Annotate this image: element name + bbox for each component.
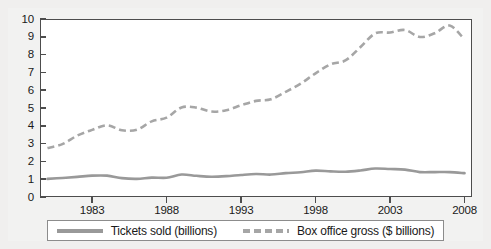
x-tick-label: 1998 bbox=[293, 204, 339, 216]
x-tick-mark bbox=[240, 197, 242, 203]
y-tick-label: 4 bbox=[0, 120, 34, 130]
y-tick-label: 8 bbox=[0, 49, 34, 59]
line-chart: 109876543210 198319881993199820032008 bbox=[0, 0, 491, 249]
series-tickets-sold bbox=[47, 168, 464, 178]
legend-label-box-office-gross: Box office gross ($ billions) bbox=[297, 224, 434, 238]
chart-screenshot: 109876543210 198319881993199820032008 Ti… bbox=[0, 0, 491, 249]
y-tick-label: 2 bbox=[0, 156, 34, 166]
x-tick-mark bbox=[315, 197, 317, 203]
x-tick-mark bbox=[91, 197, 93, 203]
x-tick-label: 2008 bbox=[442, 204, 488, 216]
legend-item-tickets-sold: Tickets sold (billions) bbox=[57, 224, 217, 238]
y-tick-label: 10 bbox=[0, 14, 34, 24]
x-tick-mark bbox=[389, 197, 391, 203]
y-tick-label: 1 bbox=[0, 174, 34, 184]
y-tick-label: 5 bbox=[0, 103, 34, 113]
x-tick-mark bbox=[464, 197, 466, 203]
x-tick-label: 1988 bbox=[144, 204, 190, 216]
series-canvas bbox=[40, 19, 472, 197]
series-box-office-gross bbox=[47, 25, 464, 148]
y-tick-label: 0 bbox=[0, 192, 34, 202]
x-tick-label: 1983 bbox=[69, 204, 115, 216]
y-tick-label: 7 bbox=[0, 67, 34, 77]
x-tick-mark bbox=[166, 197, 168, 203]
legend-swatch-dashed-icon bbox=[243, 225, 289, 237]
x-tick-label: 1993 bbox=[218, 204, 264, 216]
y-tick-label: 3 bbox=[0, 138, 34, 148]
y-tick-label: 6 bbox=[0, 85, 34, 95]
legend-swatch-solid-icon bbox=[57, 225, 103, 237]
chart-legend: Tickets sold (billions) Box office gross… bbox=[47, 220, 444, 241]
x-tick-label: 2003 bbox=[367, 204, 413, 216]
legend-item-box-office-gross: Box office gross ($ billions) bbox=[243, 224, 434, 238]
y-tick-label: 9 bbox=[0, 31, 34, 41]
legend-label-tickets-sold: Tickets sold (billions) bbox=[111, 224, 217, 238]
